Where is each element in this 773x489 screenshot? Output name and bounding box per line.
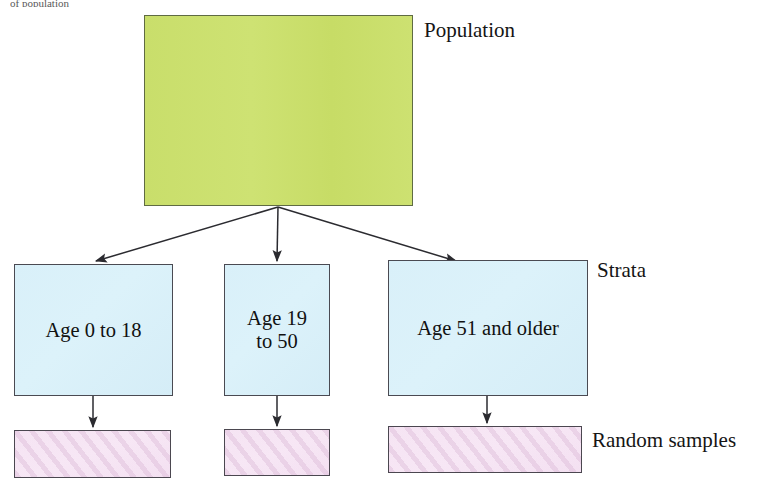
stratum-box-2-text: Age 19to 50 xyxy=(241,307,313,353)
edge-population-to-stratum-1 xyxy=(96,207,278,261)
sample-box-1 xyxy=(14,430,171,478)
diagram-canvas: of population Population Age 0 to 18 Age… xyxy=(0,0,773,489)
sample-box-2 xyxy=(224,429,330,476)
stratum-box-3-text: Age 51 and older xyxy=(411,317,565,340)
stratum-box-1: Age 0 to 18 xyxy=(14,264,173,396)
edge-population-to-stratum-3 xyxy=(278,207,456,261)
strata-label: Strata xyxy=(597,260,646,281)
population-label: Population xyxy=(424,20,515,41)
edge-population-to-stratum-2 xyxy=(277,207,278,261)
sample-box-3 xyxy=(388,426,582,473)
stratum-box-3: Age 51 and older xyxy=(388,260,588,396)
cropped-caption-fragment: of population xyxy=(10,0,160,7)
random-samples-label: Random samples xyxy=(592,430,736,451)
stratum-box-2: Age 19to 50 xyxy=(224,264,330,396)
stratum-box-1-text: Age 0 to 18 xyxy=(39,319,147,342)
population-box xyxy=(144,15,413,206)
